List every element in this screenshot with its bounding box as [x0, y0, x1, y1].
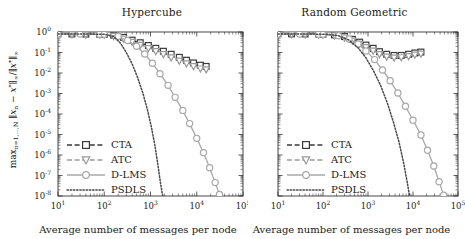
svg-text:10-5: 10-5: [34, 128, 51, 140]
figure-container: Hypercube 10110210310410510010-110-210-3…: [0, 0, 465, 239]
yaxis-label-hypercube: maxn=1,...,N ∥xn − x*∥∞/∥x*∥∞: [7, 35, 18, 185]
panel-hypercube: Hypercube 10110210310410510010-110-210-3…: [0, 0, 248, 239]
svg-text:104: 104: [406, 199, 421, 211]
xaxis-label-hypercube: Average number of messages per node: [28, 224, 248, 235]
legend-label-atc: ATC: [331, 153, 352, 167]
legend-item-cta: CTA: [66, 137, 146, 152]
svg-text:101: 101: [271, 199, 286, 211]
svg-text:103: 103: [143, 199, 158, 211]
svg-text:102: 102: [316, 199, 331, 211]
plot-area-random-geometric: 101102103104105: [232, 0, 465, 239]
legend-swatch-atc-icon: [66, 153, 106, 167]
legend-swatch-d-lms-icon: [66, 168, 106, 182]
legend-item-cta: CTA: [286, 137, 366, 152]
svg-text:102: 102: [97, 199, 112, 211]
legend-swatch-cta-icon: [66, 138, 106, 152]
legend-swatch-cta-icon: [286, 138, 326, 152]
svg-text:10-7: 10-7: [34, 169, 51, 181]
legend-swatch-d-lms-icon: [286, 168, 326, 182]
legend-label-cta: CTA: [331, 138, 352, 152]
legend-item-atc: ATC: [286, 152, 366, 167]
legend-item-psdls: PSDLS: [66, 182, 146, 197]
svg-text:10-2: 10-2: [34, 66, 51, 78]
legend-label-cta: CTA: [111, 138, 132, 152]
xaxis-label-random-geometric: Average number of messages per node: [238, 224, 465, 235]
panel-random-geometric: Random Geometric 101102103104105 Average…: [232, 0, 465, 239]
svg-text:100: 100: [36, 25, 51, 37]
svg-text:104: 104: [189, 199, 204, 211]
svg-text:103: 103: [361, 199, 376, 211]
legend-item-d-lms: D-LMS: [66, 167, 146, 182]
svg-text:10-1: 10-1: [34, 46, 51, 58]
svg-text:105: 105: [451, 199, 465, 211]
plot-area-hypercube: 10110210310410510010-110-210-310-410-510…: [0, 0, 248, 239]
legend-item-atc: ATC: [66, 152, 146, 167]
legend-item-psdls: PSDLS: [286, 182, 366, 197]
legend-swatch-psdls-icon: [66, 183, 106, 197]
svg-text:10-8: 10-8: [34, 189, 51, 201]
legend-swatch-atc-icon: [286, 153, 326, 167]
legend-item-d-lms: D-LMS: [286, 167, 366, 182]
svg-text:10-6: 10-6: [34, 148, 51, 160]
legend-label-atc: ATC: [111, 153, 132, 167]
legend-random-geometric: CTAATCD-LMSPSDLS: [286, 137, 366, 197]
legend-label-psdls: PSDLS: [331, 183, 366, 197]
legend-label-d-lms: D-LMS: [331, 168, 366, 182]
svg-text:101: 101: [51, 199, 66, 211]
legend-swatch-psdls-icon: [286, 183, 326, 197]
svg-text:10-4: 10-4: [34, 107, 51, 119]
legend-hypercube: CTAATCD-LMSPSDLS: [66, 137, 146, 197]
svg-text:10-3: 10-3: [34, 87, 51, 99]
legend-label-psdls: PSDLS: [111, 183, 146, 197]
legend-label-d-lms: D-LMS: [111, 168, 146, 182]
